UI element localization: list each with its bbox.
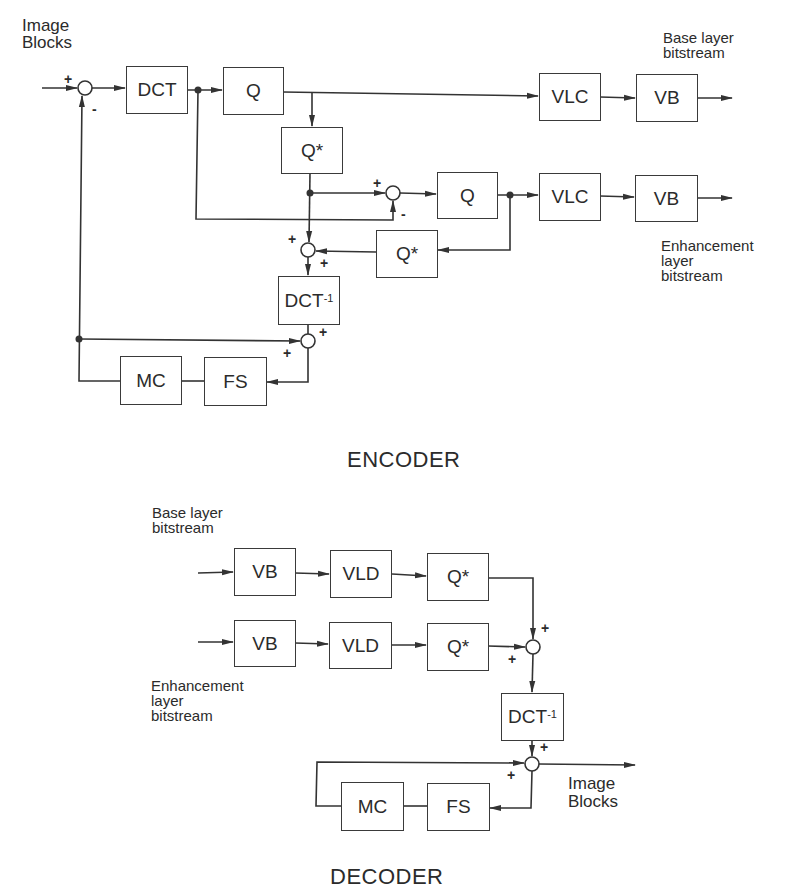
block-label: VLC bbox=[552, 86, 589, 108]
block-label: VLC bbox=[552, 186, 589, 208]
sign: + bbox=[288, 232, 296, 246]
decoder-vb-enh-block: VB bbox=[234, 620, 296, 667]
decoder-vld-base-block: VLD bbox=[330, 550, 392, 598]
encoder-fs-block: FS bbox=[204, 357, 267, 406]
encoder-title: ENCODER bbox=[347, 447, 461, 473]
decoder-fs-block: FS bbox=[427, 783, 490, 831]
block-label: VB bbox=[654, 188, 679, 210]
encoder-input-label: Image Blocks bbox=[22, 17, 72, 51]
block-label: MC bbox=[136, 370, 166, 392]
junction-dot bbox=[307, 190, 314, 197]
sign: + bbox=[320, 256, 328, 270]
encoder-enh-output-label: Enhancement layer bitstream bbox=[661, 238, 754, 283]
block-label: Q* bbox=[447, 566, 469, 588]
block-label: MC bbox=[358, 796, 388, 818]
block-label: Q* bbox=[447, 636, 469, 658]
block-label: Q* bbox=[301, 140, 323, 162]
encoder-base-output-label: Base layer bitstream bbox=[663, 30, 734, 60]
sign: + bbox=[541, 621, 549, 635]
decoder-output-label: Image Blocks bbox=[568, 775, 618, 811]
junction-dot bbox=[76, 336, 83, 343]
encoder-vlc-enh-block: VLC bbox=[539, 173, 601, 221]
block-label: DCT bbox=[137, 79, 176, 101]
decoder-qstar-base-block: Q* bbox=[427, 553, 489, 601]
sign: + bbox=[373, 176, 381, 190]
encoder-qstar-base-block: Q* bbox=[281, 127, 343, 174]
sign: + bbox=[64, 72, 72, 86]
sign: + bbox=[508, 652, 516, 666]
block-label: FS bbox=[446, 796, 470, 818]
encoder-idct-block: DCT-1 bbox=[278, 276, 340, 325]
superscript: -1 bbox=[547, 708, 557, 720]
block-label: Q* bbox=[396, 243, 418, 265]
encoder-vb-base-block: VB bbox=[636, 74, 698, 122]
junction-dot bbox=[195, 87, 202, 94]
sign: - bbox=[401, 207, 406, 221]
decoder-qstar-enh-block: Q* bbox=[427, 623, 489, 671]
superscript: -1 bbox=[324, 292, 334, 304]
junction-dot bbox=[507, 192, 514, 199]
encoder-mc-block: MC bbox=[120, 356, 182, 405]
sign: + bbox=[540, 740, 548, 754]
block-label: VB bbox=[252, 561, 277, 583]
decoder-vld-enh-block: VLD bbox=[329, 622, 392, 669]
encoder-vlc-base-block: VLC bbox=[539, 73, 601, 121]
block-label: Q bbox=[246, 80, 261, 102]
block-label: DCT bbox=[508, 706, 547, 728]
encoder-qstar-enh-block: Q* bbox=[376, 230, 438, 278]
encoder-vb-enh-block: VB bbox=[635, 175, 698, 222]
encoder-dct-block: DCT bbox=[126, 66, 188, 114]
decoder-vb-base-block: VB bbox=[234, 548, 296, 596]
decoder-base-input-label: Base layer bitstream bbox=[152, 505, 223, 535]
decoder-title: DECODER bbox=[330, 864, 444, 890]
encoder-q-enh-block: Q bbox=[437, 172, 498, 219]
sign: + bbox=[319, 325, 327, 339]
block-label: VB bbox=[252, 633, 277, 655]
decoder-idct-block: DCT-1 bbox=[501, 693, 564, 741]
decoder-enh-input-label: Enhancement layer bitstream bbox=[151, 678, 244, 723]
block-label: DCT bbox=[285, 290, 324, 312]
block-label: VLD bbox=[342, 635, 379, 657]
sign: + bbox=[507, 768, 515, 782]
block-label: VLD bbox=[343, 563, 380, 585]
block-label: Q bbox=[460, 185, 475, 207]
block-label: VB bbox=[654, 87, 679, 109]
sign: - bbox=[92, 102, 97, 116]
decoder-mc-block: MC bbox=[341, 782, 404, 831]
block-label: FS bbox=[223, 371, 247, 393]
sign: + bbox=[283, 346, 291, 360]
encoder-q-base-block: Q bbox=[223, 67, 284, 115]
